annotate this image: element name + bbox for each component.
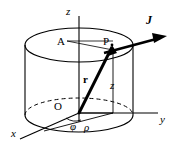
axis-label-z: z (66, 6, 70, 17)
cylindrical-coordinate-diagram: z y x A P O J r z φ ρ (0, 0, 174, 151)
vector-label-j: J (146, 14, 152, 26)
point-label-o: O (54, 101, 62, 112)
coordinate-label-z-height: z (110, 80, 114, 91)
vector-label-r: r (83, 74, 88, 85)
vector-j-arrowhead (152, 33, 167, 43)
coordinate-label-rho: ρ (84, 122, 89, 133)
point-label-p: P (103, 36, 109, 47)
axis-label-x: x (11, 128, 16, 139)
point-p-dot (111, 44, 114, 47)
point-o-dot (78, 112, 81, 115)
point-label-a: A (57, 36, 65, 47)
coordinate-label-phi: φ (70, 121, 76, 132)
axis-label-y: y (160, 114, 165, 125)
